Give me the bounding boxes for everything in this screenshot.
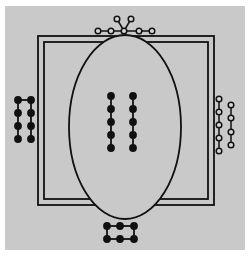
left-molecule-icon (15, 97, 34, 142)
central-ellipse (69, 35, 181, 219)
right-molecule-icon (216, 96, 234, 154)
top-molecule-icon (95, 16, 155, 34)
diagram-canvas (0, 0, 251, 258)
bottom-molecule-icon (104, 223, 137, 242)
